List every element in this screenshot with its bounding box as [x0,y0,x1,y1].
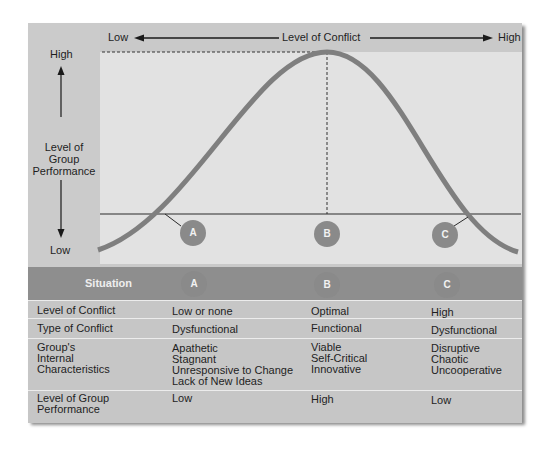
cell-a: Low [172,393,192,404]
x-axis-low-label: Low [108,31,128,43]
table-header: Situation A B C [28,267,522,300]
cell-c: High [431,307,454,318]
marker-a: A [180,220,206,246]
cell-b: Functional [311,323,362,334]
x-axis-high-label: High [498,31,521,43]
table-row-type-of-conflict: Type of Conflict Dysfunctional Functiona… [28,318,522,338]
situation-label: Situation [85,277,132,289]
performance-curve [98,52,518,252]
y-axis-title-line3: Performance [28,165,100,177]
y-axis-low-label: Low [50,244,70,256]
cell-c: Low [431,395,451,406]
cell-b: Viable Self-Critical Innovative [311,342,367,375]
cell-a: Apathetic Stagnant Unresponsive to Chang… [172,343,293,387]
cell-c: Dysfunctional [431,325,497,336]
marker-c: C [432,222,458,248]
marker-a-leader [165,214,181,226]
x-axis-title: Level of Conflict [282,31,360,43]
cell-b: High [311,394,334,405]
table-header-a: A [181,271,207,297]
y-axis-title-line1: Level of [28,141,100,153]
table-row-internal-characteristics: Group's Internal Characteristics Apathet… [28,338,522,390]
y-axis-title: Level of Group Performance [28,141,100,177]
table-header-c: C [434,272,460,298]
marker-c-leader [454,217,468,226]
row-label: Type of Conflict [37,323,113,334]
marker-b: B [314,221,340,247]
cell-a: Dysfunctional [172,324,238,335]
table-row-group-performance: Level of Group Performance Low High Low [28,390,522,423]
cell-a: Low or none [172,306,233,317]
table-header-b: B [314,272,340,298]
row-label: Group's Internal Characteristics [37,342,110,375]
row-label: Level of Group Performance [37,393,109,415]
row-label: Level of Conflict [37,305,115,316]
table-row-level-of-conflict: Level of Conflict Low or none Optimal Hi… [28,300,522,318]
y-axis-title-line2: Group [28,153,100,165]
cell-c: Disruptive Chaotic Uncooperative [431,343,502,376]
cell-b: Optimal [311,306,349,317]
y-axis-high-label: High [50,48,73,60]
